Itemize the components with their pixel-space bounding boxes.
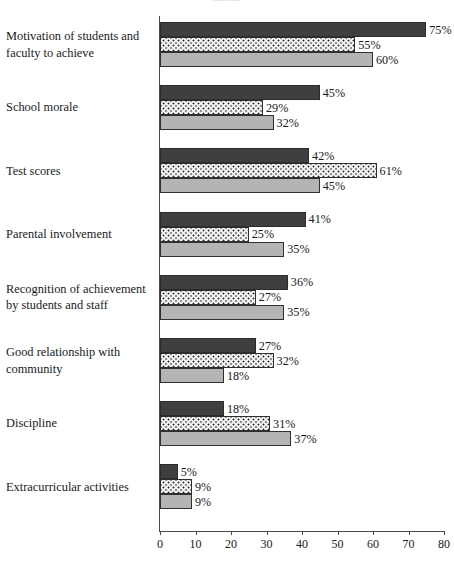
bar-row: 45% [160,85,380,100]
category-label-line: Extracurricular activities [6,479,156,496]
category-label: Good relationship withcommunity [6,344,156,377]
bar-value-label: 29% [263,100,288,115]
bar-row: 29% [160,100,323,115]
bar-series-2 [160,353,274,368]
bar-value-label: 27% [256,338,281,353]
x-axis-tick-label: 0 [157,537,163,552]
bar-row: 45% [160,178,380,193]
bar-row: 36% [160,275,348,290]
category-label-line: Good relationship with [6,344,156,361]
bar-series-2 [160,163,377,178]
bar-value-label: 37% [291,431,316,446]
x-axis-tick-label: 40 [296,537,308,552]
bar-series-3 [160,178,320,193]
bar-group: Discipline18%31%37% [0,401,454,464]
x-axis-tick [267,531,268,535]
x-axis-tick-label: 20 [225,537,237,552]
category-label: Test scores [6,163,156,180]
bar-row: 18% [160,401,284,416]
bar-value-label: 9% [192,479,211,494]
bar-series-1 [160,338,256,353]
x-axis-tick [444,531,445,535]
bar-value-label: 41% [306,212,331,227]
category-label-line: Parental involvement [6,226,156,243]
bar-group: Parental involvement41%25%35% [0,212,454,275]
bar-value-label: 25% [249,227,274,242]
bar-series-1 [160,401,224,416]
category-label: Recognition of achievementby students an… [6,281,156,314]
category-label: Discipline [6,415,156,432]
category-label-line: Test scores [6,163,156,180]
bar-row: 75% [160,22,454,37]
bar-value-label: 35% [284,242,309,257]
x-axis-tick [338,531,339,535]
bar-row: 31% [160,416,330,431]
bar-value-label: 36% [288,275,313,290]
bar-row: 35% [160,242,344,257]
x-axis-tick [302,531,303,535]
bar-value-label: 60% [373,52,398,67]
category-label: School morale [6,99,156,116]
bar-series-1 [160,148,309,163]
bar-value-label: 32% [274,115,299,130]
bar-row: 9% [160,494,252,509]
bar-series-3 [160,368,224,383]
bar-value-label: 31% [270,416,295,431]
category-label: Extracurricular activities [6,479,156,496]
bar-group: Good relationship withcommunity27%32%18% [0,338,454,401]
bar-row: 60% [160,52,433,67]
x-axis-tick-label: 60 [367,537,379,552]
category-label-line: Recognition of achievement [6,281,156,298]
bar-value-label: 27% [256,290,281,305]
bar-group: School morale45%29%32% [0,85,454,148]
cropped-title-remnant: ......... [0,0,454,5]
category-label: Motivation of students andfaculty to ach… [6,28,156,61]
category-label-line: Motivation of students and [6,28,156,45]
bar-value-label: 45% [320,85,345,100]
category-label-line: community [6,361,156,378]
category-label-line: School morale [6,99,156,116]
bar-row: 42% [160,148,369,163]
bar-series-3 [160,242,284,257]
x-axis-tick-label: 10 [190,537,202,552]
horizontal-bar-chart: ......... 01020304050607080 Motivation o… [0,0,454,567]
bar-series-1 [160,275,288,290]
bar-series-3 [160,494,192,509]
bar-series-3 [160,52,373,67]
x-axis-tick [196,531,197,535]
bar-row: 37% [160,431,351,446]
bar-value-label: 45% [320,178,345,193]
bar-series-3 [160,431,291,446]
bar-row: 55% [160,37,415,52]
bar-series-2 [160,227,249,242]
bar-row: 27% [160,290,316,305]
bar-series-1 [160,464,178,479]
bar-row: 32% [160,115,334,130]
bar-series-1 [160,22,426,37]
x-axis-tick-label: 50 [332,537,344,552]
bar-value-label: 42% [309,148,334,163]
bar-row: 25% [160,227,309,242]
bar-row: 5% [160,464,238,479]
bar-value-label: 35% [284,305,309,320]
x-axis-tick-label: 70 [403,537,415,552]
bar-series-2 [160,290,256,305]
bar-row: 41% [160,212,366,227]
bar-series-2 [160,100,263,115]
bar-series-3 [160,305,284,320]
bar-value-label: 5% [178,464,197,479]
bar-row: 27% [160,338,316,353]
bar-value-label: 55% [355,37,380,52]
bar-row: 35% [160,305,344,320]
bar-value-label: 61% [377,163,402,178]
bar-value-label: 18% [224,368,249,383]
bar-series-3 [160,115,274,130]
category-label: Parental involvement [6,226,156,243]
category-label-line: faculty to achieve [6,45,156,62]
bar-group: Recognition of achievementby students an… [0,275,454,338]
bar-series-2 [160,416,270,431]
bar-series-1 [160,85,320,100]
x-axis-tick-label: 30 [261,537,273,552]
bar-value-label: 18% [224,401,249,416]
bar-series-1 [160,212,306,227]
